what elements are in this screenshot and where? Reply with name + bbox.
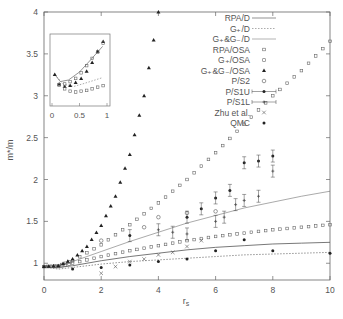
x-tick-label: 10 [325, 285, 335, 295]
y-tick-label: 1 [33, 258, 38, 268]
legend-entry: RPA/OSA [213, 45, 265, 55]
y-tick-label: 1.5 [26, 216, 38, 226]
x-tick-label: 8 [270, 285, 275, 295]
legend-entry: QMC [230, 118, 265, 128]
legend-label: RPA/D [225, 13, 250, 23]
series-p-s1u [128, 150, 275, 242]
y-tick-label: 2.5 [26, 133, 38, 143]
legend-entry: P/S1L [227, 97, 276, 107]
legend-entry: G₊/OSA [218, 55, 265, 65]
legend-label: P/S1L [227, 97, 250, 107]
legend-entry: RPA/D [225, 13, 276, 23]
y-tick-label: 2 [33, 175, 38, 185]
legend-entry: P/S1U [225, 87, 276, 97]
legend-entry: P/S2 [232, 76, 266, 86]
legend-entry: G₊&G₋/D [213, 34, 276, 44]
legend-label: RPA/OSA [213, 45, 250, 55]
legend-entry: G₊/D [230, 24, 276, 34]
x-tick-label: 2 [99, 285, 104, 295]
legend-label: G₊&G₋/D [213, 34, 250, 44]
legend-label: P/S1U [225, 87, 250, 97]
series-g-d [44, 252, 330, 269]
legend-label: P/S2 [232, 76, 251, 86]
y-tick-label: 3.5 [26, 49, 38, 59]
legend-entry: G₊&G₋/OSA [201, 66, 266, 76]
inset-plot: 00.51 [50, 34, 110, 120]
y-axis-label: m*/m [5, 140, 15, 161]
legend-label: G₊/D [230, 24, 250, 34]
y-tick-label: 4 [33, 7, 38, 17]
y-tick-label: 3 [33, 91, 38, 101]
legend-label: G₊&G₋/OSA [201, 66, 251, 76]
x-tick-label: 4 [156, 285, 161, 295]
inset-x-tick-label: 0 [50, 111, 55, 120]
inset-x-tick-label: 0.5 [74, 111, 86, 120]
legend-label: QMC [230, 118, 250, 128]
x-axis-label: rs [183, 296, 190, 307]
legend-entry: Zhu et al. [215, 108, 266, 118]
legend-label: G₊/OSA [218, 55, 250, 65]
series-zhu-et-al- [99, 239, 203, 275]
x-tick-label: 6 [213, 285, 218, 295]
legend: RPA/DG₊/DG₊&G₋/DRPA/OSAG₊/OSAG₊&G₋/OSAP/… [201, 13, 276, 128]
x-tick-label: 0 [42, 285, 47, 295]
legend-label: Zhu et al. [215, 108, 250, 118]
chart-figure: 024681011.522.533.54 00.51 RPA/DG₊/DG₊&G… [0, 0, 343, 319]
inset-x-tick-label: 1 [105, 111, 110, 120]
